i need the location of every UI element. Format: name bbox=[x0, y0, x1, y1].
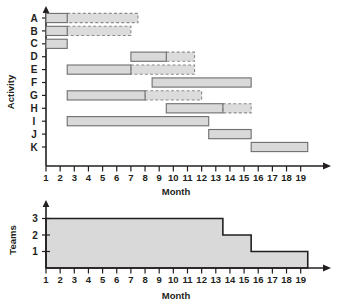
gantt-x-tick-label: 5 bbox=[100, 172, 106, 183]
hist-x-tick-label: 10 bbox=[168, 274, 179, 285]
gantt-x-axis-arrow bbox=[323, 163, 331, 170]
figure-container: ABCDEFGHIJK12345678910111213141516171819… bbox=[0, 0, 353, 306]
gantt-x-tick-label: 12 bbox=[196, 172, 207, 183]
gantt-bar-H bbox=[166, 104, 223, 113]
gantt-x-tick-label: 16 bbox=[253, 172, 264, 183]
hist-x-tick-label: 4 bbox=[86, 274, 92, 285]
hist-x-tick-label: 16 bbox=[253, 274, 264, 285]
gantt-bar-D bbox=[131, 52, 166, 61]
figure-svg: ABCDEFGHIJK12345678910111213141516171819… bbox=[0, 0, 353, 306]
gantt-x-tick-label: 9 bbox=[157, 172, 162, 183]
gantt-row-label-F: F bbox=[31, 77, 37, 88]
hist-x-tick-label: 13 bbox=[210, 274, 221, 285]
gantt-bar-K bbox=[251, 142, 308, 151]
resource-histogram-area bbox=[46, 219, 308, 269]
hist-x-tick-label: 15 bbox=[239, 274, 250, 285]
hist-x-tick-label: 1 bbox=[43, 274, 49, 285]
gantt-x-tick-label: 17 bbox=[267, 172, 278, 183]
gantt-x-tick-label: 14 bbox=[225, 172, 236, 183]
gantt-bar-C bbox=[46, 39, 67, 48]
hist-y-tick-label: 2 bbox=[32, 230, 38, 241]
gantt-x-tick-label: 4 bbox=[86, 172, 92, 183]
gantt-x-tick-label: 1 bbox=[43, 172, 49, 183]
gantt-bar-J bbox=[209, 130, 251, 139]
gantt-row-label-D: D bbox=[30, 51, 37, 62]
gantt-x-tick-label: 10 bbox=[168, 172, 179, 183]
hist-y-axis-title: Teams bbox=[7, 225, 18, 254]
gantt-x-tick-label: 11 bbox=[182, 172, 193, 183]
gantt-x-tick-label: 6 bbox=[114, 172, 119, 183]
gantt-row-label-E: E bbox=[31, 64, 38, 75]
gantt-float-bar-E bbox=[131, 65, 195, 74]
gantt-bar-B bbox=[46, 26, 67, 35]
gantt-x-tick-label: 13 bbox=[210, 172, 221, 183]
gantt-x-tick-label: 3 bbox=[72, 172, 77, 183]
gantt-bar-E bbox=[67, 65, 131, 74]
gantt-float-bar-D bbox=[166, 52, 194, 61]
hist-x-tick-label: 14 bbox=[225, 274, 236, 285]
gantt-bar-F bbox=[152, 78, 251, 87]
hist-x-tick-label: 3 bbox=[72, 274, 77, 285]
gantt-bar-A bbox=[46, 13, 67, 22]
gantt-float-bar-A bbox=[67, 13, 138, 22]
hist-x-tick-label: 9 bbox=[157, 274, 162, 285]
gantt-x-tick-label: 18 bbox=[281, 172, 292, 183]
hist-x-axis-title: Month bbox=[162, 290, 191, 301]
gantt-x-tick-label: 8 bbox=[142, 172, 147, 183]
gantt-bar-G bbox=[67, 91, 145, 100]
hist-x-axis-arrow bbox=[323, 265, 331, 272]
gantt-y-axis-arrow bbox=[43, 6, 50, 13]
hist-x-tick-label: 19 bbox=[295, 274, 306, 285]
gantt-row-label-C: C bbox=[30, 38, 37, 49]
hist-x-tick-label: 18 bbox=[281, 274, 292, 285]
gantt-row-label-G: G bbox=[30, 90, 38, 101]
gantt-row-label-J: J bbox=[31, 129, 37, 140]
gantt-row-label-H: H bbox=[30, 103, 37, 114]
gantt-float-bar-G bbox=[145, 91, 202, 100]
gantt-x-axis-title: Month bbox=[162, 186, 191, 197]
hist-x-tick-label: 5 bbox=[100, 274, 106, 285]
hist-x-tick-label: 17 bbox=[267, 274, 278, 285]
hist-x-tick-label: 12 bbox=[196, 274, 207, 285]
gantt-bar-I bbox=[67, 117, 208, 126]
gantt-float-bar-H bbox=[223, 104, 251, 113]
gantt-x-tick-label: 15 bbox=[239, 172, 250, 183]
gantt-x-tick-label: 2 bbox=[58, 172, 63, 183]
gantt-row-label-K: K bbox=[30, 142, 38, 153]
gantt-row-label-A: A bbox=[30, 13, 37, 24]
gantt-row-label-B: B bbox=[30, 26, 37, 37]
gantt-float-bar-B bbox=[67, 26, 131, 35]
hist-x-tick-label: 7 bbox=[128, 274, 133, 285]
hist-y-tick-label: 3 bbox=[32, 213, 38, 224]
hist-x-tick-label: 2 bbox=[58, 274, 63, 285]
gantt-row-label-I: I bbox=[33, 116, 36, 127]
hist-y-axis-arrow bbox=[43, 200, 50, 207]
gantt-x-tick-label: 19 bbox=[295, 172, 306, 183]
gantt-y-axis-title: Activity bbox=[5, 74, 16, 109]
hist-y-tick-label: 1 bbox=[32, 246, 38, 257]
hist-x-tick-label: 8 bbox=[142, 274, 147, 285]
hist-x-tick-label: 6 bbox=[114, 274, 119, 285]
gantt-x-tick-label: 7 bbox=[128, 172, 133, 183]
hist-x-tick-label: 11 bbox=[182, 274, 193, 285]
